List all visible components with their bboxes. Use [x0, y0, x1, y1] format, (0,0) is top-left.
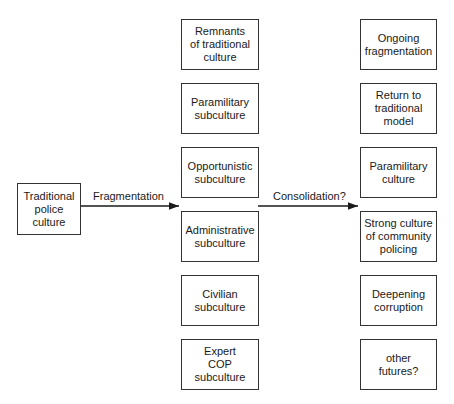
subculture-expert-cop-box: Expert COP subculture — [181, 339, 259, 390]
traditional-police-culture-box: Traditional police culture — [17, 183, 81, 235]
future-paramilitary-culture-box: Paramilitary culture — [360, 147, 437, 198]
subculture-administrative-box: Administrative subculture — [181, 211, 259, 262]
subculture-remnants-box: Remnants of traditional culture — [181, 19, 259, 70]
fragmentation-label: Fragmentation — [93, 190, 164, 202]
future-ongoing-fragmentation-box: Ongoing fragmentation — [360, 19, 437, 70]
future-other-futures-box: other futures? — [360, 339, 437, 390]
subculture-paramilitary-box: Paramilitary subculture — [181, 83, 259, 134]
subculture-civilian-box: Civilian subculture — [181, 275, 259, 326]
consolidation-label: Consolidation? — [273, 190, 346, 202]
future-community-policing-box: Strong culture of community policing — [360, 211, 437, 262]
future-return-traditional-box: Return to traditional model — [360, 83, 437, 134]
future-deepening-corruption-box: Deepening corruption — [360, 275, 437, 326]
subculture-opportunistic-box: Opportunistic subculture — [181, 147, 259, 198]
